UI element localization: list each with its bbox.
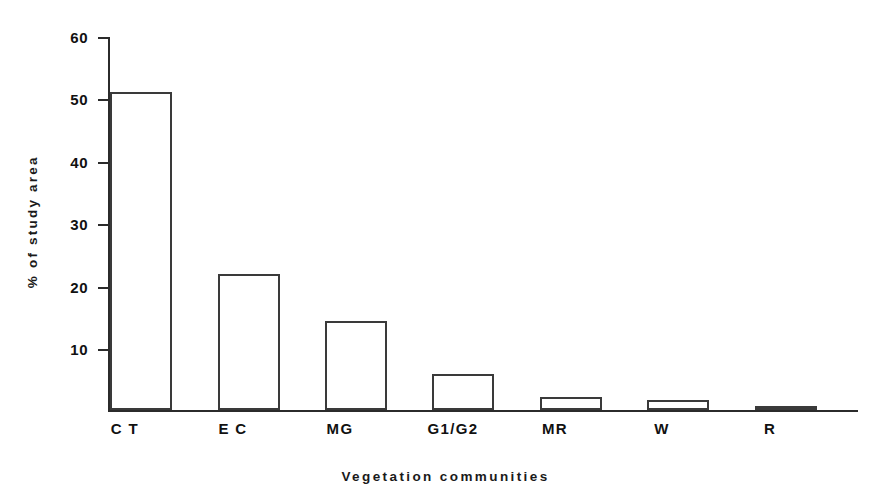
x-tick-label-w: W <box>627 421 697 436</box>
x-tick-label-g1g2: G1/G2 <box>408 421 498 436</box>
y-axis-title: % of study area <box>26 127 40 317</box>
x-axis-line <box>108 410 858 412</box>
x-tick-label-r: R <box>735 421 805 436</box>
bars-layer <box>0 0 891 412</box>
plot-area: 60 50 40 30 20 10 C T E C MG G1/G2 MR W <box>0 0 891 501</box>
bar-ct <box>110 92 172 410</box>
bar-g1g2 <box>432 374 494 410</box>
bar-ec <box>218 274 280 410</box>
bar-w <box>647 400 709 410</box>
bar-mg <box>325 321 387 410</box>
x-tick-label-mr: MR <box>520 421 590 436</box>
x-tick-label-ct: C T <box>90 421 160 436</box>
bar-mr <box>540 397 602 410</box>
x-tick-label-mg: MG <box>305 421 375 436</box>
x-tick-label-ec: E C <box>198 421 268 436</box>
bar-chart-figure: 60 50 40 30 20 10 C T E C MG G1/G2 MR W <box>0 0 891 501</box>
x-axis-title: Vegetation communities <box>0 470 891 484</box>
